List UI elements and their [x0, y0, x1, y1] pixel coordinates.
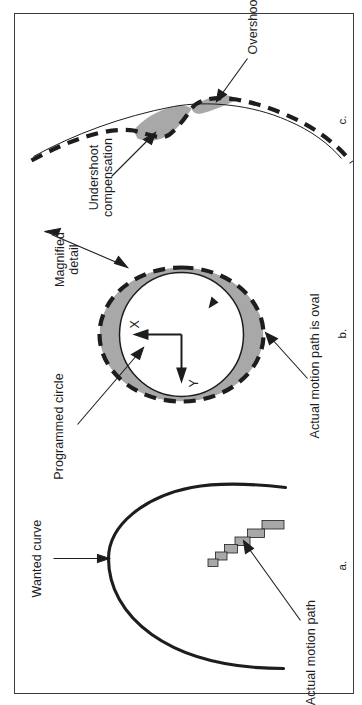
- panel-a: Wanted curve Actual motion path a.: [16, 443, 353, 693]
- label-actual-motion-path-is-oval: Actual motion path is oval: [309, 293, 323, 438]
- label-overshoot: Overshoot: [247, 0, 261, 55]
- undershoot-compensation-leader: [112, 133, 156, 177]
- label-undershoot-compensation: Undershoot compensation: [88, 135, 115, 221]
- actual-oval-leader: [266, 333, 308, 379]
- panel-a-graphic: [16, 443, 353, 693]
- actual-compensated-path: [32, 98, 352, 162]
- axis-label-x: X: [129, 320, 143, 328]
- figure-border: Wanted curve Actual motion path a.: [14, 13, 354, 694]
- label-wanted-curve: Wanted curve: [31, 520, 45, 598]
- panel-b-letter: b.: [336, 329, 348, 339]
- panel-c: Undershoot compensation Overshoot c.: [16, 15, 353, 227]
- wanted-curve-leader: [54, 555, 110, 563]
- panel-a-letter: a.: [336, 561, 348, 571]
- axis-label-y: Y: [188, 379, 202, 387]
- label-actual-motion-path: Actual motion path: [305, 600, 319, 705]
- panel-b: Programmed circle Actual motion path is …: [16, 227, 353, 443]
- magnified-detail-line2: detail: [67, 244, 81, 274]
- panel-c-graphic: [16, 15, 353, 227]
- panel-c-letter: c.: [336, 116, 348, 125]
- wanted-curve-arc: [109, 484, 286, 668]
- label-magnified-detail: Magnified detail: [54, 227, 81, 293]
- figure-canvas: Wanted curve Actual motion path a.: [16, 15, 353, 693]
- actual-motion-path-leader: [244, 541, 301, 621]
- label-programmed-circle: Programmed circle: [53, 373, 67, 480]
- magnified-detail-line1: Magnified: [53, 232, 67, 287]
- overshoot-leader: [217, 59, 248, 102]
- undershoot-line2: compensation: [100, 138, 114, 217]
- undershoot-line1: Undershoot: [87, 145, 101, 211]
